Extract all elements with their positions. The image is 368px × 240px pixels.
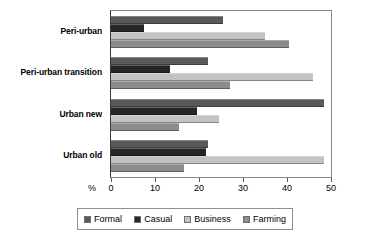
bar-urban-old-formal: [111, 140, 208, 148]
category-label-urban-old: Urban old: [0, 150, 102, 160]
x-tick-label-50: 50: [319, 183, 343, 193]
bar-peri-urban-business: [111, 32, 265, 40]
bar-urban-old-casual: [111, 148, 206, 156]
bar-group-urban-old: [111, 140, 331, 172]
bar-urban-old-farming: [111, 164, 184, 172]
legend-label-formal: Formal: [94, 214, 122, 224]
x-tick-label-0: 0: [99, 183, 123, 193]
legend-item-formal[interactable]: Formal: [84, 214, 122, 224]
bar-group-urban-new: [111, 99, 331, 131]
category-axis-labels: Peri-urbanPeri-urban transitionUrban new…: [0, 10, 106, 178]
bar-urban-new-business: [111, 115, 219, 123]
plot-area: [110, 10, 332, 178]
bar-peri-urban-casual: [111, 24, 144, 32]
x-tick-40: [287, 178, 288, 182]
bars-container: [111, 11, 331, 177]
x-tick-label-10: 10: [143, 183, 167, 193]
x-tick-50: [331, 178, 332, 182]
x-axis-title: %: [88, 183, 96, 193]
bar-peri-urban-formal: [111, 16, 223, 24]
legend-item-business[interactable]: Business: [184, 214, 231, 224]
x-tick-20: [199, 178, 200, 182]
x-tick-label-20: 20: [187, 183, 211, 193]
bar-urban-new-casual: [111, 107, 197, 115]
x-tick-10: [155, 178, 156, 182]
bar-peri-urban-transition-formal: [111, 57, 208, 65]
legend-item-casual[interactable]: Casual: [134, 214, 172, 224]
bar-group-peri-urban: [111, 16, 331, 48]
bar-urban-new-formal: [111, 99, 324, 107]
x-tick-0: [111, 178, 112, 182]
bar-peri-urban-transition-farming: [111, 81, 230, 89]
bar-urban-new-farming: [111, 123, 179, 131]
x-tick-label-40: 40: [275, 183, 299, 193]
category-label-peri-urban-transition: Peri-urban transition: [0, 67, 102, 77]
bar-urban-old-business: [111, 156, 324, 164]
bar-chart: Peri-urbanPeri-urban transitionUrban new…: [0, 0, 368, 240]
bar-peri-urban-transition-casual: [111, 65, 170, 73]
category-label-peri-urban: Peri-urban: [0, 26, 102, 36]
category-label-urban-new: Urban new: [0, 109, 102, 119]
legend-swatch-business-icon: [184, 216, 191, 223]
bar-group-peri-urban-transition: [111, 57, 331, 89]
legend-swatch-formal-icon: [84, 216, 91, 223]
legend-label-farming: Farming: [253, 214, 286, 224]
legend-swatch-farming-icon: [243, 216, 250, 223]
legend-label-business: Business: [194, 214, 231, 224]
bar-peri-urban-farming: [111, 40, 289, 48]
legend-swatch-casual-icon: [134, 216, 141, 223]
legend-label-casual: Casual: [144, 214, 172, 224]
x-tick-30: [243, 178, 244, 182]
chart-legend: FormalCasualBusinessFarming: [77, 208, 293, 230]
x-tick-label-30: 30: [231, 183, 255, 193]
legend-item-farming[interactable]: Farming: [243, 214, 286, 224]
bar-peri-urban-transition-business: [111, 73, 313, 81]
x-axis: 01020304050: [110, 178, 332, 194]
